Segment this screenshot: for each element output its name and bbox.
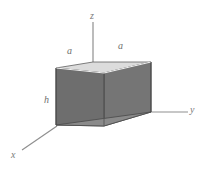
dimension-label-a-left: a <box>67 46 72 56</box>
z-axis-label: z <box>90 11 94 21</box>
y-axis-label: y <box>190 105 194 115</box>
dimension-label-h: h <box>44 95 49 105</box>
prism-solid <box>56 62 151 126</box>
x-axis-label: x <box>11 150 15 160</box>
prism-diagram: z y x a a h <box>0 0 207 169</box>
diagram-canvas <box>0 0 207 169</box>
prism-left-face <box>56 68 104 126</box>
dimension-label-a-right: a <box>118 41 123 51</box>
x-axis-line <box>22 126 57 150</box>
